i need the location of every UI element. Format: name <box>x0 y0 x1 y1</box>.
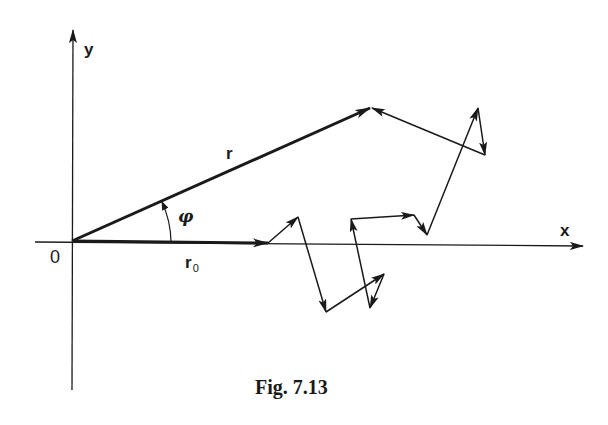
step-9 <box>478 108 485 155</box>
vector-r <box>72 108 370 241</box>
x-axis-label: x <box>560 222 569 239</box>
step-1 <box>268 217 298 243</box>
vector-r0-label-base: r <box>185 253 192 272</box>
step-2 <box>298 217 326 312</box>
step-7 <box>414 215 427 235</box>
figure-canvas: y x 0 r φ r0 Fig. 7.13 <box>0 0 608 425</box>
step-3 <box>326 274 384 312</box>
angle-arc <box>162 202 171 242</box>
vector-r-label: r <box>226 145 233 162</box>
vector-r0 <box>72 241 268 243</box>
origin-label: 0 <box>50 248 60 266</box>
y-axis-label: y <box>84 41 93 58</box>
step-8 <box>427 108 478 235</box>
angle-phi-label: φ <box>178 208 193 225</box>
figure-caption: Fig. 7.13 <box>255 377 328 397</box>
vector-r0-label: r0 <box>185 254 199 274</box>
vector-r0-label-subscript: 0 <box>193 262 199 274</box>
random-walk-diagram <box>0 0 608 425</box>
step-6 <box>351 215 414 219</box>
y-axis <box>72 30 73 390</box>
axes <box>35 30 583 390</box>
